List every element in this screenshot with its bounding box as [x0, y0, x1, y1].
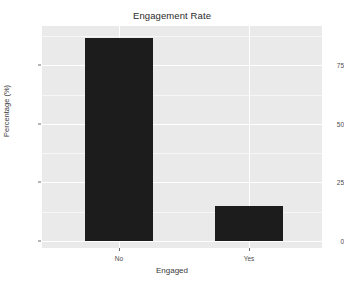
y-tick-mark-50: [38, 123, 41, 124]
gridline-minor-62-5: [42, 95, 322, 96]
y-tick-mark-0: [38, 241, 41, 242]
x-axis-label: Engaged: [0, 266, 344, 275]
x-tick-mark-yes: [249, 248, 250, 251]
x-tick-mark-no: [119, 248, 120, 251]
chart-title: Engagement Rate: [0, 10, 344, 21]
chart-figure: Engagement Rate Percentage (%) 0 25 50 7…: [0, 0, 344, 287]
x-tick-label-no: No: [115, 255, 123, 262]
gridline-minor-87-5: [42, 36, 322, 37]
gridline-minor-37-5: [42, 153, 322, 154]
gridline-major-0: [42, 241, 322, 242]
y-axis-label: Percentage (%): [2, 85, 11, 137]
gridline-major-75: [42, 65, 322, 66]
y-tick-mark-75: [38, 65, 41, 66]
bar-no[interactable]: [85, 38, 153, 241]
y-tick-mark-25: [38, 182, 41, 183]
bar-yes[interactable]: [215, 206, 283, 241]
gridline-major-25: [42, 182, 322, 183]
x-tick-label-yes: Yes: [244, 255, 255, 262]
gridline-major-50: [42, 124, 322, 125]
plot-panel: [42, 26, 322, 248]
